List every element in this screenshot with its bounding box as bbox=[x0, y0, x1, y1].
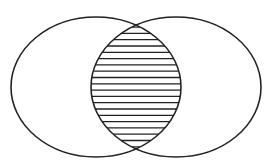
venn-diagram bbox=[0, 0, 272, 164]
intersection-hatching bbox=[91, 27, 181, 147]
right-set-ellipse bbox=[91, 17, 261, 157]
left-set-ellipse bbox=[11, 17, 181, 157]
